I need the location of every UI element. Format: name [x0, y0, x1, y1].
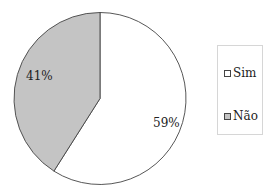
legend-label-nao: Não	[233, 109, 258, 123]
slice-label-nao: 41%	[26, 69, 53, 83]
legend-item-sim: Sim	[224, 66, 256, 80]
legend-swatch-sim	[224, 70, 231, 77]
legend-swatch-nao	[224, 113, 231, 120]
legend-item-nao: Não	[224, 109, 258, 123]
slice-label-sim: 59%	[153, 116, 180, 130]
legend-label-sim: Sim	[233, 66, 256, 80]
legend: Sim Não	[217, 45, 263, 135]
